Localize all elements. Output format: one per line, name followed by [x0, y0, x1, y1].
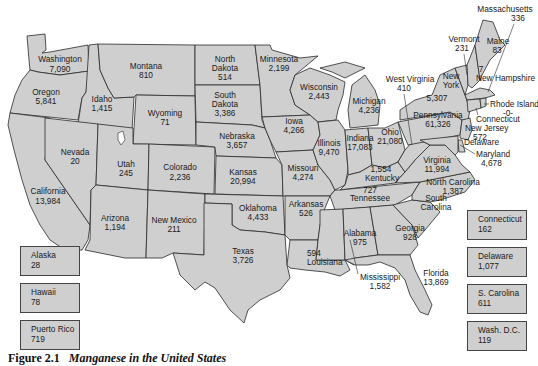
value-pennsylvania: 61,326	[425, 119, 451, 129]
inset-wash-dc-value: 119	[478, 335, 526, 345]
value-maine: 83	[492, 45, 502, 55]
value-maryland: 4,678	[481, 158, 502, 168]
value-virginia: 11,994	[425, 164, 450, 174]
value-montana: 810	[139, 70, 153, 80]
value-idaho: 1,415	[92, 103, 113, 113]
label-california: California	[30, 186, 65, 196]
label-new-jersey: New Jersey	[465, 123, 509, 133]
value-arkansas: 526	[299, 208, 313, 218]
label-colorado: Colorado	[163, 162, 197, 172]
figure-caption-label: Figure 2.1	[8, 351, 60, 365]
value-west-virginia: 410	[397, 83, 411, 93]
value-washington: 7,090	[50, 64, 71, 74]
label-rhode-island: Rhode Island	[490, 99, 538, 109]
value-nebraska: 3,657	[227, 140, 248, 150]
inset-puerto-rico[interactable]: Puerto Rico 719	[20, 320, 80, 350]
value-vermont: 231	[455, 43, 469, 53]
inset-alaska-value: 28	[31, 260, 79, 270]
inset-connecticut[interactable]: Connecticut 162	[467, 210, 527, 240]
inset-connecticut-value: 162	[478, 224, 526, 234]
value-california: 13,984	[35, 196, 61, 206]
value-oregon: 5,841	[36, 96, 57, 106]
inset-hawaii[interactable]: Hawaii 78	[20, 283, 80, 313]
value-kansas: 20,994	[230, 176, 256, 186]
label-kentucky: Kentucky	[365, 173, 400, 183]
value-iowa: 4,266	[284, 125, 305, 135]
label-south-carolina-2: Carolina	[421, 202, 452, 212]
inset-south-carolina[interactable]: S. Carolina 611	[467, 284, 527, 314]
inset-puerto-rico-value: 719	[31, 334, 79, 344]
inset-connecticut-name: Connecticut	[478, 214, 526, 224]
figure-caption: Figure 2.1 Manganese in the United State…	[8, 351, 226, 366]
value-illinois: 9,470	[319, 147, 340, 157]
value-colorado: 2,236	[170, 172, 191, 182]
value-wisconsin: 2,443	[309, 91, 330, 101]
inset-delaware[interactable]: Delaware 1,077	[467, 247, 527, 277]
value-new-mexico: 211	[167, 224, 181, 234]
value-texas: 3,726	[233, 255, 254, 265]
inset-delaware-name: Delaware	[478, 251, 526, 261]
value-minnesota: 2,199	[269, 63, 290, 73]
value-arizona: 1,194	[105, 222, 126, 232]
label-new-hampshire: New Hampshire	[476, 73, 535, 83]
state-connecticut[interactable]	[467, 99, 481, 112]
value-north-carolina: 1,387	[443, 186, 464, 196]
inset-south-carolina-name: S. Carolina	[478, 288, 526, 298]
value-south-dakota: 3,386	[215, 108, 236, 118]
inset-south-carolina-value: 611	[478, 298, 526, 308]
value-georgia: 928	[403, 232, 417, 242]
inset-alaska[interactable]: Alaska 28	[20, 246, 80, 276]
value-missouri: 4,274	[293, 172, 314, 182]
label-delaware: Delaware	[464, 137, 499, 147]
value-ohio: 21,080	[377, 136, 403, 146]
inset-puerto-rico-name: Puerto Rico	[31, 324, 79, 334]
value-massachusetts: 336	[511, 13, 525, 23]
value-new-york: 5,307	[427, 93, 448, 103]
value-north-dakota: 514	[218, 72, 232, 82]
label-new-york-2: York	[443, 80, 460, 90]
inset-delaware-value: 1,077	[478, 261, 526, 271]
label-washington: Washington	[38, 54, 82, 64]
label-louisiana: Louisiana	[307, 257, 343, 267]
value-wyoming: 71	[160, 117, 170, 127]
inset-hawaii-value: 78	[31, 297, 79, 307]
inset-hawaii-name: Hawaii	[31, 287, 79, 297]
figure-caption-text: Manganese in the United States	[69, 351, 226, 365]
value-mississippi: 1,582	[370, 281, 391, 291]
value-nevada: 20	[70, 156, 80, 166]
inset-wash-dc[interactable]: Wash. D.C. 119	[467, 321, 527, 351]
value-michigan: 4,236	[359, 105, 380, 115]
inset-alaska-name: Alaska	[31, 250, 79, 260]
label-tennessee: Tennessee	[350, 193, 391, 203]
state-rhode-island[interactable]	[480, 98, 486, 108]
inset-wash-dc-name: Wash. D.C.	[478, 325, 526, 335]
value-florida: 13,869	[423, 277, 449, 287]
value-indiana: 17,083	[347, 142, 373, 152]
value-alabama: 975	[353, 237, 367, 247]
value-oklahoma: 4,433	[248, 212, 269, 222]
value-utah: 245	[119, 168, 133, 178]
